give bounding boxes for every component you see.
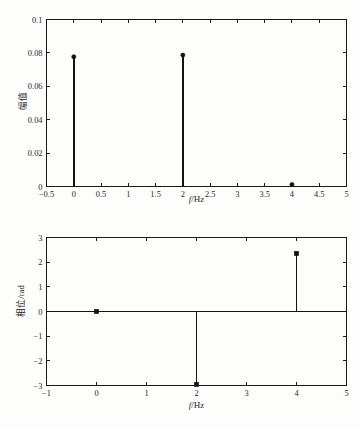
stem-marker <box>290 182 294 186</box>
figure-canvas: −0.500.511.522.533.544.5500.020.040.060.… <box>0 0 361 429</box>
x-tick-label: 1 <box>144 389 148 398</box>
y-tick-label: 0 <box>38 183 42 192</box>
amplitude-y-axis-title: 幅值 <box>16 71 28 131</box>
y-tick-label: 0 <box>38 308 42 317</box>
stem-marker <box>72 55 76 59</box>
y-tick-label: 1 <box>38 283 42 292</box>
stem-marker <box>181 53 185 57</box>
chart-phase-spectrum: −1012345−3−2−10123 <box>0 215 361 429</box>
y-tick-label: −1 <box>34 332 43 341</box>
y-tick-label: 0.08 <box>28 49 43 58</box>
chart-amplitude-spectrum: −0.500.511.522.533.544.5500.020.040.060.… <box>0 0 361 215</box>
phase-y-axis-title: 相位/rad <box>14 271 26 331</box>
plot-frame <box>47 20 347 187</box>
phase-x-axis-title: f/Hz <box>46 400 347 410</box>
stem-marker <box>294 251 298 255</box>
x-tick-label: 0 <box>94 389 98 398</box>
y-tick-label: 0.02 <box>28 149 43 158</box>
x-axis-unit: /Hz <box>191 400 204 410</box>
stem-marker <box>94 309 98 313</box>
x-tick-label: 2 <box>194 389 198 398</box>
x-tick-label: −1 <box>42 389 51 398</box>
y-tick-label: −3 <box>34 382 43 391</box>
x-axis-unit: /Hz <box>191 194 204 204</box>
y-tick-label: 3 <box>38 234 42 243</box>
phase-plot-area: −1012345−3−2−10123 <box>0 215 361 429</box>
x-tick-label: 5 <box>344 389 348 398</box>
y-tick-label: 0.04 <box>28 116 43 125</box>
x-tick-label: 4 <box>294 389 299 398</box>
y-tick-label: 2 <box>38 258 42 267</box>
x-tick-label: 3 <box>244 389 248 398</box>
y-tick-label: 0.1 <box>32 16 42 25</box>
stem-marker <box>194 382 198 386</box>
amplitude-plot-area: −0.500.511.522.533.544.5500.020.040.060.… <box>0 0 361 215</box>
y-tick-label: 0.06 <box>28 82 43 91</box>
y-tick-label: −2 <box>34 357 43 366</box>
amplitude-x-axis-title: f/Hz <box>46 194 347 204</box>
